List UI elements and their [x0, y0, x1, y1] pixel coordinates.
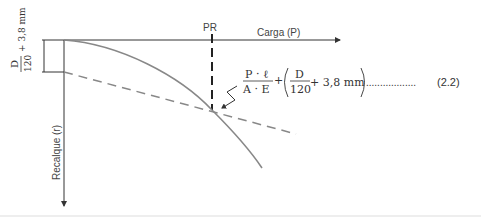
equation: P · ℓ A · E + D 120 + 3,8 mm ...........…	[242, 68, 460, 97]
pr-label: PR	[203, 22, 217, 33]
bracket-suffix: + 3,8 mm	[17, 7, 27, 52]
y-axis-label: Recalque (r)	[51, 125, 62, 180]
equation-frac1-num: P · ℓ	[245, 68, 268, 81]
equation-frac2-den: 120	[290, 83, 311, 96]
equation-plus: +	[274, 74, 283, 87]
bracket-label: D 120 + 3,8 mm	[9, 7, 33, 72]
bracket-numerator: D	[9, 60, 20, 68]
equation-frac2-suffix: + 3,8 mm	[310, 76, 365, 89]
x-axis-label: Carga (P)	[257, 27, 300, 38]
equation-leader-dots: ..................	[366, 77, 416, 88]
equation-frac2-num: D	[295, 68, 304, 81]
load-settlement-curve	[64, 40, 262, 168]
equation-frac1-den: A · E	[242, 83, 269, 96]
diagram-canvas: PR Carga (P) Recalque (r) D 120 + 3,8 mm…	[0, 0, 481, 217]
offset-bracket	[42, 40, 64, 72]
equation-number: (2.2)	[437, 76, 460, 88]
leader-arrow	[222, 86, 237, 108]
bracket-denominator: 120	[23, 55, 33, 72]
